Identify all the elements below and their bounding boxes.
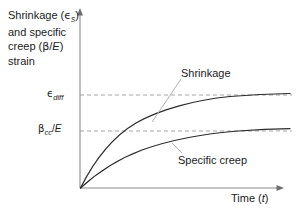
y-axis-title-line3-pre: creep ( [8,40,42,52]
beta-cc-modulus: E [55,123,62,134]
chart-figure: Shrinkage (ϵs)and specificcreep (β/E)str… [0,0,298,211]
eps-diff-subscript: diff [53,93,63,102]
y-axis-title: Shrinkage (ϵs)and specificcreep (β/E)str… [8,8,92,68]
y-axis-title-line3-post: ) [60,40,64,52]
y-axis-title-line2: and specific [8,26,66,38]
x-axis-title-post: ) [265,192,269,204]
x-axis-title-pre: Time ( [231,192,262,204]
y-axis-title-line1-post: ) [75,9,79,21]
y-axis-title-modulus-symbol: E [52,40,59,52]
annotation-specific-creep: Specific creep [178,153,247,167]
leader-line-specific-creep [172,143,182,153]
x-axis-title: Time (t) [231,191,269,205]
leader-line-shrinkage [152,79,181,122]
y-tick-label-eps-diff: ϵdiff [47,88,63,103]
y-axis-title-line4: strain [8,55,35,67]
y-axis-title-line1-pre: Shrinkage ( [8,9,64,21]
y-tick-label-beta-cc: βcc/E [38,123,61,138]
beta-cc-subscript: cc [44,128,52,137]
curve-shrinkage [81,94,291,189]
x-axis-arrowhead [277,185,285,191]
annotation-shrinkage: Shrinkage [181,66,231,80]
